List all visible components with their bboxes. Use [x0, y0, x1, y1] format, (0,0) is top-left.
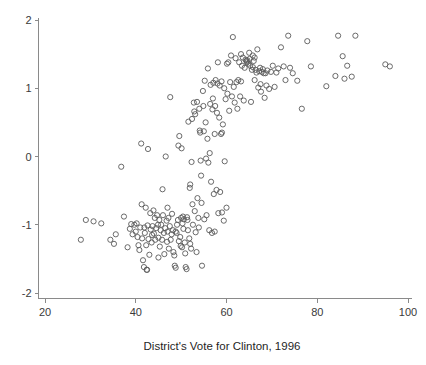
scatter-point — [247, 50, 252, 55]
scatter-point — [140, 258, 145, 263]
scatter-point — [222, 159, 227, 164]
scatter-point — [287, 65, 292, 70]
scatter-point — [295, 78, 300, 83]
scatter-point — [206, 160, 211, 165]
scatter-point — [241, 98, 246, 103]
scatter-plot-figure: 210-1-2 20406080100 District's Vote for … — [0, 0, 426, 365]
scatter-point — [78, 237, 83, 242]
scatter-point — [333, 73, 338, 78]
scatter-point — [189, 116, 194, 121]
x-tick-label: 40 — [130, 306, 142, 318]
scatter-point — [345, 63, 350, 68]
scatter-point — [195, 196, 200, 201]
scatter-point — [281, 64, 286, 69]
scatter-point — [196, 225, 201, 230]
scatter-point — [188, 241, 193, 246]
scatter-point — [189, 246, 194, 251]
scatter-point — [324, 84, 329, 89]
scatter-point — [252, 77, 257, 82]
scatter-point — [204, 213, 209, 218]
scatter-point — [262, 95, 267, 100]
scatter-point — [336, 33, 341, 38]
scatter-point — [215, 60, 220, 65]
scatter-point — [387, 64, 392, 69]
scatter-point — [224, 205, 229, 210]
scatter-point — [198, 158, 203, 163]
scatter-point — [168, 95, 173, 100]
scatter-point — [232, 100, 237, 105]
y-tick-label: -2 — [22, 287, 32, 299]
scatter-point — [171, 249, 176, 254]
scatter-point — [174, 222, 179, 227]
scatter-point — [91, 219, 96, 224]
scatter-point — [203, 120, 208, 125]
x-axis-ticks: 20406080100 — [39, 299, 417, 318]
scatter-point — [221, 218, 226, 223]
scatter-point — [229, 94, 234, 99]
scatter-point — [182, 240, 187, 245]
scatter-point — [149, 240, 154, 245]
scatter-point — [147, 252, 152, 257]
scatter-point — [160, 213, 165, 218]
scatter-point — [228, 80, 233, 85]
scatter-point — [283, 77, 288, 82]
x-tick-label: 60 — [220, 306, 232, 318]
scatter-point — [187, 236, 192, 241]
scatter-point — [183, 251, 188, 256]
scatter-point — [207, 150, 212, 155]
scatter-point — [278, 45, 283, 50]
scatter-point — [230, 34, 235, 39]
scatter-point — [190, 202, 195, 207]
scatter-point — [201, 103, 206, 108]
scatter-point — [194, 99, 199, 104]
scatter-point — [210, 96, 215, 101]
scatter-point — [166, 246, 171, 251]
scatter-point — [248, 99, 253, 104]
scatter-point — [290, 71, 295, 76]
scatter-point — [353, 33, 358, 38]
scatter-point — [220, 122, 225, 127]
scatter-point — [157, 244, 162, 249]
x-tick-label: 20 — [39, 306, 51, 318]
scatter-point — [227, 108, 232, 113]
scatter-point — [231, 84, 236, 89]
scatter-point — [222, 86, 227, 91]
x-axis-title: District's Vote for Clinton, 1996 — [144, 340, 301, 352]
scatter-point — [210, 107, 215, 112]
scatter-point — [125, 245, 130, 250]
scatter-point — [198, 173, 203, 178]
scatter-point — [237, 60, 242, 65]
scatter-point — [176, 143, 181, 148]
scatter-point — [119, 164, 124, 169]
scatter-point — [121, 214, 126, 219]
scatter-point — [169, 211, 174, 216]
scatter-point — [216, 211, 221, 216]
scatter-point — [286, 33, 291, 38]
scatter-point — [199, 200, 204, 205]
scatter-point — [270, 63, 275, 68]
scatter-point — [143, 205, 148, 210]
y-tick-label: -1 — [22, 219, 32, 231]
scatter-point — [151, 208, 156, 213]
scatter-point — [113, 232, 118, 237]
scatter-point — [342, 76, 347, 81]
scatter-point — [83, 217, 88, 222]
scatter-point — [272, 84, 277, 89]
scatter-point — [212, 131, 217, 136]
scatter-point — [192, 209, 197, 214]
scatter-point — [205, 66, 210, 71]
y-axis-ticks: 210-1-2 — [22, 14, 39, 299]
scatter-point — [217, 115, 222, 120]
scatter-point — [193, 230, 198, 235]
scatter-point — [137, 247, 142, 252]
scatter-point — [200, 88, 205, 93]
x-tick-label: 80 — [311, 306, 323, 318]
scatter-point — [208, 101, 213, 106]
scatter-point — [224, 61, 229, 66]
scatter-point — [219, 210, 224, 215]
scatter-point — [213, 103, 218, 108]
scatter-point — [145, 146, 150, 151]
scatter-point — [179, 245, 184, 250]
scatter-points-layer — [78, 33, 392, 272]
y-tick-label: 0 — [25, 151, 31, 163]
